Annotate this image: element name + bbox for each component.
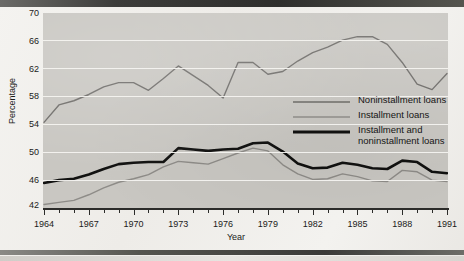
gridline-62	[43, 68, 448, 69]
x-tick-1990	[432, 208, 433, 213]
x-tick-1967	[89, 208, 90, 215]
x-tick-label-1964: 1964	[27, 219, 61, 229]
x-tick-label-1967: 1967	[72, 219, 106, 229]
x-tick-1970	[134, 208, 135, 215]
x-tick-label-1982: 1982	[296, 219, 330, 229]
x-tick-1981	[298, 208, 299, 213]
gridline-50	[43, 152, 448, 153]
x-tick-1979	[268, 208, 269, 215]
x-tick-1982	[313, 208, 314, 215]
x-tick-1988	[402, 208, 403, 215]
x-tick-1987	[387, 208, 388, 213]
legend-item-installment: Installment loans	[288, 111, 448, 123]
x-tick-1966	[74, 208, 75, 213]
x-tick-label-1991: 1991	[430, 219, 464, 229]
x-tick-1977	[238, 208, 239, 213]
legend-swatch-noninstallment	[293, 98, 350, 106]
page-rule-bottom-secondary	[0, 256, 464, 261]
x-tick-1973	[178, 208, 179, 215]
chart-legend: Noninstallment loans Installment loans I…	[288, 96, 448, 148]
x-tick-1989	[417, 208, 418, 213]
gridline-46	[43, 180, 448, 181]
x-tick-label-1973: 1973	[161, 219, 195, 229]
x-tick-1984	[343, 208, 344, 213]
x-tick-1968	[104, 208, 105, 213]
x-tick-label-1976: 1976	[206, 219, 240, 229]
gridline-66	[43, 40, 448, 41]
legend-item-noninstallment: Noninstallment loans	[288, 96, 448, 108]
y-tick-label-66: 66	[13, 36, 39, 46]
x-tick-1969	[119, 208, 120, 213]
x-axis-title: Year	[206, 232, 266, 242]
x-tick-1965	[59, 208, 60, 213]
x-tick-1964	[44, 208, 45, 215]
y-tick-label-70: 70	[13, 8, 39, 18]
x-tick-1972	[163, 208, 164, 213]
legend-label-combined-line2: noninstallment loans	[358, 135, 445, 146]
chart-figure: Percentage 70 66 62 58 54 50 46 42 Nonin…	[0, 0, 464, 261]
legend-label-combined-line1: Installment and	[358, 124, 422, 135]
y-tick-label-50: 50	[13, 147, 39, 157]
x-tick-1980	[283, 208, 284, 213]
page-rule-top	[0, 0, 464, 7]
page-rule-bottom	[0, 250, 464, 255]
x-tick-label-1979: 1979	[251, 219, 285, 229]
x-tick-1974	[193, 208, 194, 213]
x-tick-1975	[208, 208, 209, 213]
x-tick-1971	[148, 208, 149, 213]
y-tick-label-54: 54	[13, 119, 39, 129]
legend-swatch-combined	[293, 128, 350, 136]
plot-area: Noninstallment loans Installment loans I…	[43, 13, 448, 208]
x-tick-1983	[328, 208, 329, 213]
legend-item-combined: Installment and noninstallment loans	[288, 126, 448, 148]
x-tick-1985	[357, 208, 358, 215]
x-tick-1978	[253, 208, 254, 213]
x-tick-label-1988: 1988	[385, 219, 419, 229]
legend-label-installment: Installment loans	[358, 109, 429, 120]
x-tick-label-1985: 1985	[340, 219, 374, 229]
x-tick-label-1970: 1970	[117, 219, 151, 229]
x-tick-1986	[372, 208, 373, 213]
x-tick-1991	[447, 208, 448, 215]
legend-swatch-installment	[293, 113, 350, 121]
y-tick-label-42: 42	[13, 200, 39, 210]
y-tick-label-58: 58	[13, 91, 39, 101]
y-tick-label-62: 62	[13, 64, 39, 74]
y-tick-label-46: 46	[13, 175, 39, 185]
x-tick-1976	[223, 208, 224, 215]
legend-label-noninstallment: Noninstallment loans	[358, 94, 446, 105]
